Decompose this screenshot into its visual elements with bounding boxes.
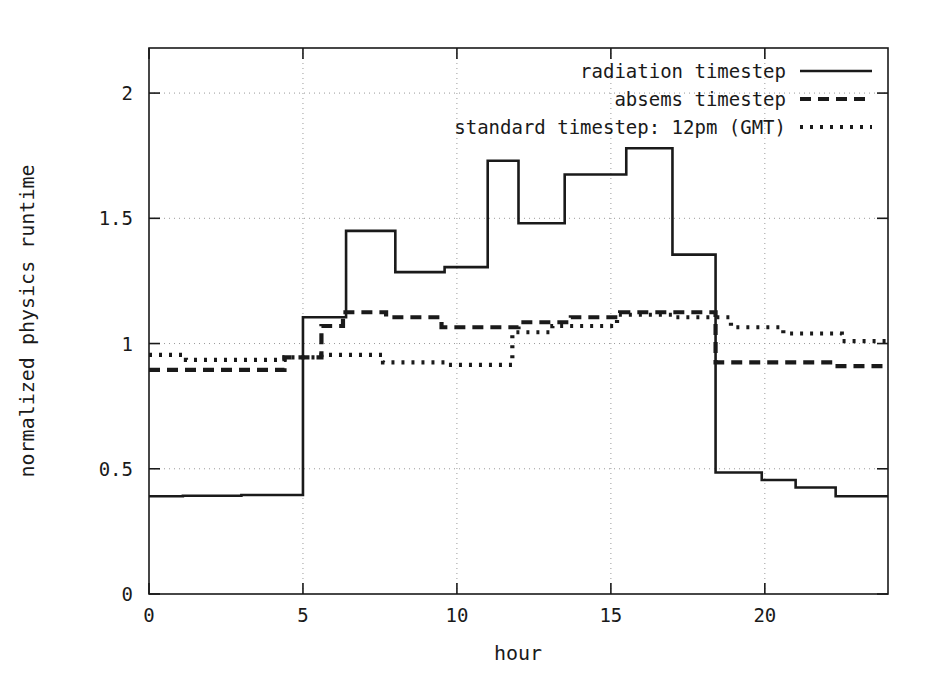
chart-background — [0, 0, 933, 693]
x-tick-label: 10 — [445, 604, 468, 626]
x-tick-label: 20 — [753, 604, 776, 626]
chart-container: 00.511.5205101520 hour normalized physic… — [0, 0, 933, 693]
y-tick-label: 0 — [122, 583, 133, 605]
x-tick-label: 0 — [143, 604, 154, 626]
y-tick-label: 1 — [122, 333, 133, 355]
x-tick-label: 5 — [297, 604, 308, 626]
legend-label: radiation timestep — [580, 60, 786, 82]
y-axis-title: normalized physics runtime — [15, 164, 39, 477]
x-tick-label: 15 — [599, 604, 622, 626]
y-tick-label: 2 — [122, 82, 133, 104]
y-tick-label: 1.5 — [99, 207, 133, 229]
x-axis-title: hour — [494, 641, 542, 665]
y-tick-label: 0.5 — [99, 458, 133, 480]
physics-runtime-line-chart: 00.511.5205101520 hour normalized physic… — [0, 0, 933, 693]
legend-label: absems timestep — [614, 88, 786, 110]
legend-label: standard timestep: 12pm (GMT) — [454, 116, 786, 138]
